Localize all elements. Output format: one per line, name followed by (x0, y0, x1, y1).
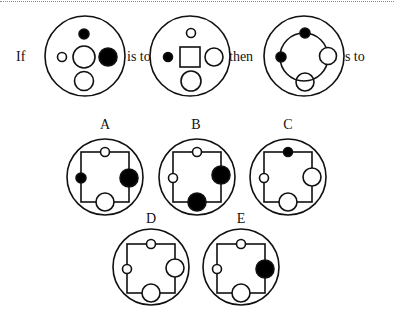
option-c-figure[interactable] (250, 139, 326, 215)
figure-1 (45, 16, 125, 96)
figure-2 (150, 16, 230, 96)
option-d-figure[interactable] (113, 229, 189, 305)
option-e-figure[interactable] (203, 229, 279, 305)
option-b-figure[interactable] (159, 139, 235, 215)
option-a-figure[interactable] (67, 139, 143, 215)
puzzle-figures (0, 0, 394, 311)
figure-3 (264, 16, 344, 96)
